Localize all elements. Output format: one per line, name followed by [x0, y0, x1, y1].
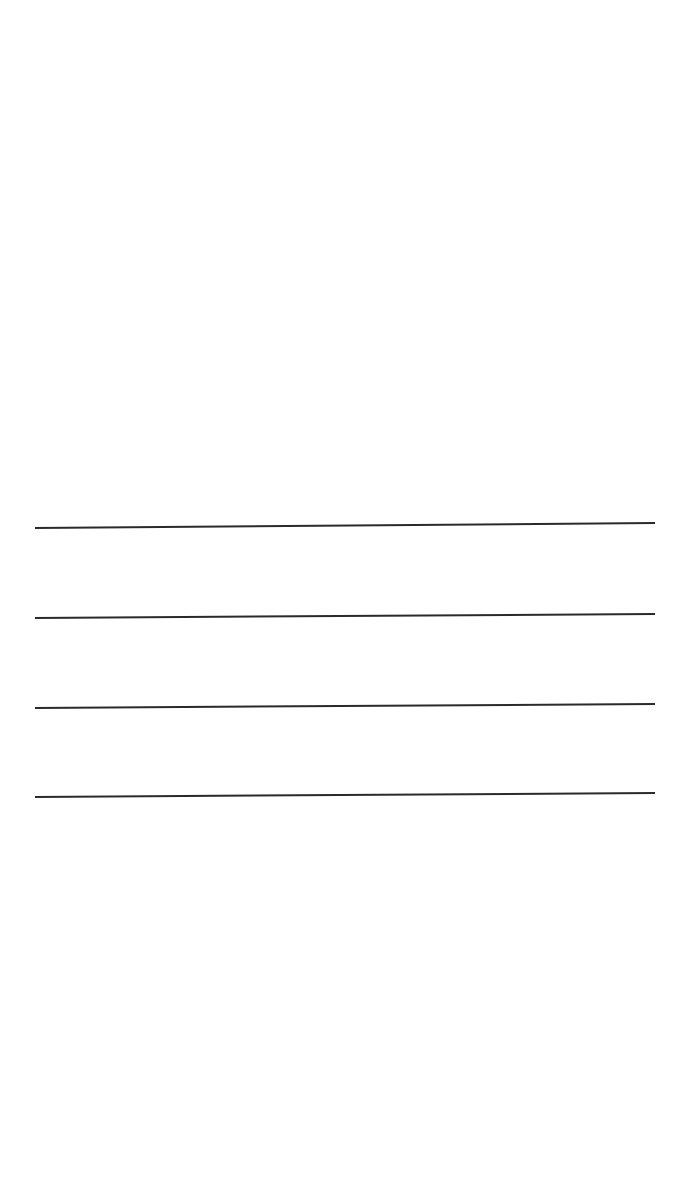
- ruled-lines-group: [0, 0, 690, 1180]
- ruled-line: [35, 614, 655, 618]
- ruled-line: [35, 793, 655, 797]
- ruled-line: [35, 523, 655, 528]
- blank-ruled-page: [0, 0, 690, 1180]
- ruled-line: [35, 704, 655, 708]
